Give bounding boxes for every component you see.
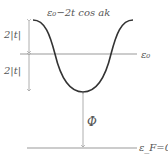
phi-label: Φ xyxy=(87,116,97,128)
lower-gap-label: 2|t| xyxy=(4,66,21,76)
eps0-label: ε₀ xyxy=(141,50,150,60)
fermi-label: ε_F=0 xyxy=(139,143,168,153)
diagram-graphics xyxy=(0,0,168,160)
band-diagram: ε₀−2t cos ak ε₀ 2|t| 2|t| Φ ε_F=0 xyxy=(0,0,168,160)
curve-label: ε₀−2t cos ak xyxy=(47,8,110,18)
upper-gap-label: 2|t| xyxy=(4,30,21,40)
band-curve xyxy=(33,20,133,92)
